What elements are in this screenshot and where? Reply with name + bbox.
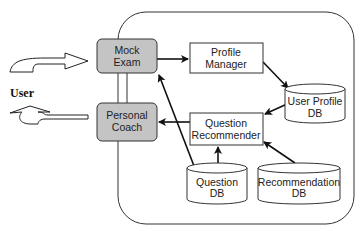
profile-manager-node: Profile Manager <box>190 43 263 73</box>
user-profile-db-node: User Profile DB <box>285 84 345 123</box>
recommendation-db-label-2: DB <box>292 187 307 199</box>
question-recommender-label-2: Recommender <box>192 129 261 141</box>
mock-exam-label-1: Mock <box>114 44 140 56</box>
user-profile-db-label-2: DB <box>308 107 323 119</box>
personal-coach-label-2: Coach <box>112 121 143 133</box>
question-db-node: Question DB <box>187 163 247 204</box>
question-recommender-label-1: Question <box>205 117 247 129</box>
mock-exam-node: Mock Exam <box>97 39 157 73</box>
input-arrow-icon <box>10 53 88 72</box>
user-profile-db-label-1: User Profile <box>288 95 343 107</box>
personal-coach-label-1: Personal <box>106 109 147 121</box>
question-recommender-node: Question Recommender <box>190 113 263 145</box>
profile-manager-label-2: Manager <box>205 58 247 70</box>
profile-manager-label-1: Profile <box>211 46 241 58</box>
question-db-label-2: DB <box>210 187 225 199</box>
mock-exam-label-2: Exam <box>114 56 141 68</box>
system-diagram: User Mock Exam Personal Coach Profile Ma… <box>0 0 363 231</box>
output-arrow-icon <box>10 106 88 124</box>
recommendation-db-node: Recommendation DB <box>258 163 340 204</box>
personal-coach-node: Personal Coach <box>97 103 157 141</box>
user-label: User <box>10 86 35 100</box>
